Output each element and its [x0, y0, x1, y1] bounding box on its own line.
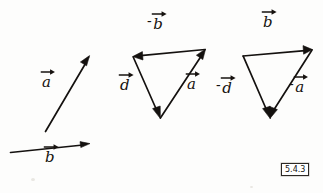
label-sign: -	[289, 77, 294, 91]
vector-a-edge	[160, 49, 205, 118]
label-sign: -	[216, 78, 221, 92]
vector-a-arrow	[46, 56, 90, 132]
label-text: a	[41, 75, 52, 90]
label-text: d	[221, 81, 233, 96]
label-text: a	[186, 77, 197, 92]
vector-d-edge	[133, 57, 160, 119]
label-text: d	[119, 78, 131, 93]
label-vector-minus-b: - b	[147, 14, 164, 32]
label-vector-b-triangle: b	[262, 15, 274, 30]
label-text: b	[262, 15, 274, 30]
vector-b-edge	[243, 46, 313, 56]
label-text: b	[152, 17, 164, 32]
label-vector-a-triangle: a	[186, 77, 197, 92]
vector-minus-d-edge	[243, 56, 270, 119]
label-vector-d: d	[119, 78, 131, 93]
vector-minus-b-edge	[133, 50, 205, 61]
label-sign: -	[147, 14, 152, 28]
label-vector-minus-a: - a	[289, 77, 305, 95]
label-vector-minus-d: - d	[216, 78, 233, 96]
label-vector-a: a	[41, 75, 52, 90]
label-text: a	[294, 80, 305, 95]
figure-number-tag: 5.4.3	[281, 163, 309, 176]
vector-figure: a b - b	[0, 0, 323, 193]
panel-given-vectors	[11, 56, 91, 153]
label-vector-b: b	[44, 150, 56, 165]
label-text: b	[44, 150, 56, 165]
